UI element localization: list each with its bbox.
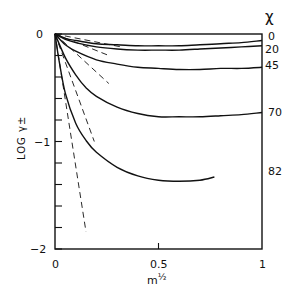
x-tick-label-0-5: 0.5 bbox=[150, 258, 168, 271]
curves bbox=[55, 34, 262, 232]
y-axis-label: LOG γ± bbox=[16, 116, 27, 160]
y-tick-label-0: 0 bbox=[36, 28, 43, 41]
y-tick-label-neg2: −2 bbox=[30, 243, 46, 256]
x-tick-label-0: 0 bbox=[52, 258, 59, 271]
x-axis-label: m½ bbox=[147, 272, 167, 287]
curve-chi-45 bbox=[55, 34, 262, 70]
x-tick-label-1: 1 bbox=[259, 258, 266, 271]
series-label-45: 45 bbox=[265, 59, 279, 72]
series-label-82: 82 bbox=[268, 165, 282, 178]
series-label-0: 0 bbox=[268, 30, 275, 43]
y-tick-label-neg1: −1 bbox=[34, 136, 50, 149]
legend-title-chi: χ bbox=[265, 8, 274, 26]
series-label-20: 20 bbox=[265, 43, 279, 56]
chart: 0 −1 −2 0 0.5 1 m½ LOG γ± χ 0 20 45 70 8… bbox=[0, 0, 296, 299]
series-label-70: 70 bbox=[268, 106, 282, 119]
